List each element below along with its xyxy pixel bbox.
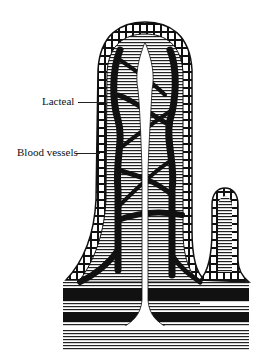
leader-blood-vessels [76,153,100,154]
leader-lacteal [78,102,104,103]
label-lacteal: Lacteal [42,96,74,107]
small-villus-core [218,196,232,272]
villus-diagram: Lacteal Blood vessels [0,0,262,357]
artery-band [63,288,249,301]
villus-illustration [0,0,262,357]
label-blood-vessels: Blood vessels [17,147,78,158]
